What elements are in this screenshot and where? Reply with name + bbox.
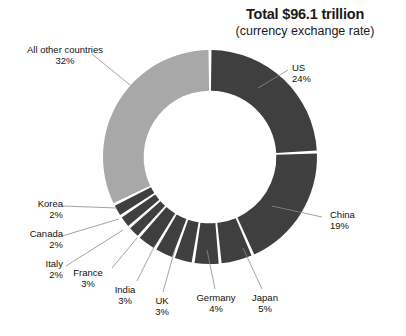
slice-label-japan: Japan 5% (248, 292, 282, 314)
slice-label-other: All other countries 32% (10, 44, 120, 66)
leader-line-canada (62, 219, 119, 236)
slice-label-other-name: All other countries (10, 44, 120, 55)
slice-label-italy-name: Italy (10, 258, 63, 269)
slice-label-japan-pct: 5% (248, 303, 282, 314)
slice-label-china-name: China (330, 209, 355, 220)
slice-label-canada-name: Canada (6, 228, 63, 239)
slice-label-india: India 3% (108, 284, 142, 306)
slice-label-other-pct: 32% (10, 55, 120, 66)
slice-label-germany-name: Germany (190, 292, 242, 303)
slice-label-japan-name: Japan (248, 292, 282, 303)
slice-label-canada-pct: 2% (6, 239, 63, 250)
slice-label-germany-pct: 4% (190, 303, 242, 314)
donut-slice-all-other-countries[interactable] (103, 50, 209, 203)
slice-label-korea-pct: 2% (6, 209, 63, 220)
slice-label-uk: UK 3% (149, 295, 175, 317)
slice-label-china: China 19% (330, 209, 355, 231)
slice-label-korea: Korea 2% (6, 198, 63, 220)
slice-label-france-name: France (66, 267, 110, 278)
slice-label-india-pct: 3% (108, 295, 142, 306)
slice-label-uk-name: UK (149, 295, 175, 306)
slice-label-us-pct: 24% (292, 73, 311, 84)
slice-label-france-pct: 3% (66, 278, 110, 289)
slice-label-china-pct: 19% (330, 220, 355, 231)
slice-label-italy: Italy 2% (10, 258, 63, 280)
gdp-donut-chart: Total $96.1 trillion (currency exchange … (0, 0, 406, 336)
slice-label-korea-name: Korea (6, 198, 63, 209)
leader-line-france (112, 238, 137, 268)
leader-line-italy (66, 230, 123, 266)
donut-slices (103, 50, 317, 264)
leader-line-japan (243, 248, 262, 289)
donut-slice-china[interactable] (237, 153, 317, 254)
slice-label-canada: Canada 2% (6, 228, 63, 250)
chart-subtitle: (currency exchange rate) (210, 24, 400, 39)
chart-title-block: Total $96.1 trillion (currency exchange … (210, 6, 400, 39)
leader-line-korea (62, 206, 117, 208)
page-title: Total $96.1 trillion (210, 6, 400, 23)
slice-label-us: US 24% (292, 62, 311, 84)
slice-label-germany: Germany 4% (190, 292, 242, 314)
slice-label-uk-pct: 3% (149, 306, 175, 317)
slice-label-us-name: US (292, 62, 311, 73)
slice-label-italy-pct: 2% (10, 269, 63, 280)
donut-slice-germany[interactable] (195, 223, 219, 264)
slice-label-india-name: India (108, 284, 142, 295)
slice-label-france: France 3% (66, 267, 110, 289)
leader-line-india (137, 245, 155, 281)
